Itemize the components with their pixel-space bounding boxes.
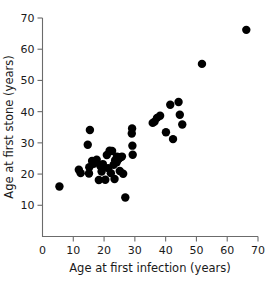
data-point [129, 151, 137, 159]
data-point [76, 169, 84, 177]
data-point [166, 101, 174, 109]
x-tick-label: 70 [251, 244, 265, 257]
y-axis-title: Age at first stone (years) [2, 55, 16, 198]
x-tick-label: 50 [189, 244, 203, 257]
y-tick-label: 40 [21, 106, 35, 119]
data-point [176, 111, 184, 119]
x-tick-label: 10 [66, 244, 80, 257]
data-point [174, 98, 182, 106]
data-point [86, 126, 94, 134]
y-tick-label: 50 [21, 74, 35, 87]
scatter-plot-figure: 10203040506070 010203040506070 Age at fi… [0, 0, 277, 291]
data-point [162, 128, 170, 136]
data-point [198, 60, 206, 68]
y-tick-label: 20 [21, 168, 35, 181]
y-tick-label: 30 [21, 137, 35, 150]
data-point [169, 135, 177, 143]
data-point [110, 175, 118, 183]
y-tick-label: 10 [21, 199, 35, 212]
x-tick-label: 40 [159, 244, 173, 257]
data-point [119, 170, 127, 178]
x-tick-label: 20 [97, 244, 111, 257]
x-tick-label: 30 [128, 244, 142, 257]
data-point [101, 175, 109, 183]
data-point [88, 157, 96, 165]
data-point [84, 141, 92, 149]
data-point [118, 152, 126, 160]
data-point [128, 129, 136, 137]
data-point [242, 26, 250, 34]
data-point [55, 182, 63, 190]
x-tick-label: 60 [220, 244, 234, 257]
y-tick-label: 70 [21, 12, 35, 25]
data-point [85, 169, 93, 177]
data-point [178, 120, 186, 128]
chart-canvas: 10203040506070 010203040506070 Age at fi… [0, 0, 277, 291]
data-point [97, 167, 105, 175]
x-axis-title: Age at first infection (years) [69, 261, 230, 275]
y-tick-label: 60 [21, 43, 35, 56]
x-tick-label: 0 [39, 244, 46, 257]
data-point [121, 193, 129, 201]
data-point [128, 141, 136, 149]
data-point [156, 112, 164, 120]
